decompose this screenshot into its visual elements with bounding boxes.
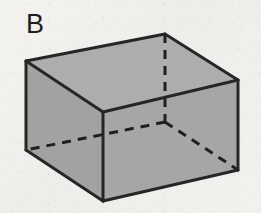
- figure-label-b: B: [26, 11, 44, 38]
- figure-panel: B: [0, 0, 261, 213]
